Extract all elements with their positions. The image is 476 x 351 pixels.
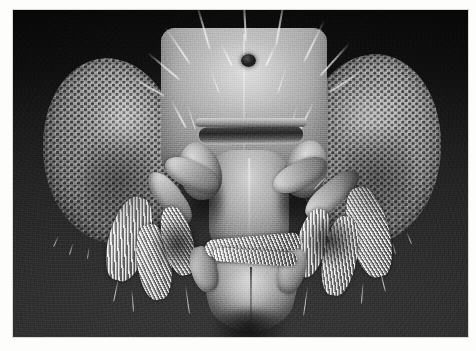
page-canvas [0, 0, 476, 351]
photo-grain-secondary [13, 10, 468, 337]
sem-micrograph-photo [13, 10, 468, 337]
